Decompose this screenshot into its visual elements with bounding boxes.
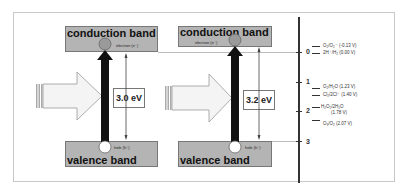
potential-oxygen-water: O₂/H₂O (1.23 V)	[323, 84, 355, 89]
potential-dash	[312, 120, 320, 121]
right-electron-icon	[229, 34, 241, 46]
left-hole-icon	[99, 141, 111, 153]
tick-label-2: 2	[306, 107, 310, 114]
right-excitation-arrow-icon	[227, 46, 243, 142]
left-band-gap-arrow-icon	[125, 53, 128, 140]
tick-label-3: 3	[306, 138, 310, 145]
potential-o2-superoxide: O₂/O₂⁻ (-0.13 V)	[323, 43, 357, 48]
potential-hydrogen: 2H⁺/H₂ (0.00 V)	[323, 50, 355, 55]
tick-1	[296, 82, 302, 83]
tick-label-1: 1	[306, 78, 310, 85]
potential-dash	[312, 46, 320, 47]
potential-dash	[312, 88, 320, 89]
tick-label-0: 0	[306, 48, 310, 55]
right-uv-arrow-icon	[165, 74, 232, 122]
tick-2	[296, 111, 302, 112]
left-electron-icon	[99, 38, 111, 50]
potential-chlorine: Cl₂/2Cl⁻ (1.40 V)	[323, 92, 357, 97]
right-band-gap-arrow-icon	[258, 47, 261, 140]
tick-3	[296, 141, 302, 142]
potential-dash	[312, 53, 320, 54]
right-hole-icon	[229, 141, 241, 153]
potential-dash	[312, 95, 320, 96]
potential-axis	[298, 17, 300, 183]
potential-peroxide: H₂O₂/2H₂O	[321, 104, 344, 109]
potential-ozone: O₃/O₂ (2.07 V)	[323, 121, 352, 126]
left-uv-arrow-icon	[36, 72, 102, 120]
tick-0	[296, 52, 302, 53]
potential-dash	[312, 107, 320, 108]
potential-peroxide-value: (1.78 V)	[331, 110, 347, 115]
